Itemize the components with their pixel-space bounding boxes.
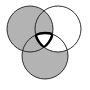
venn-diagram	[0, 0, 90, 90]
